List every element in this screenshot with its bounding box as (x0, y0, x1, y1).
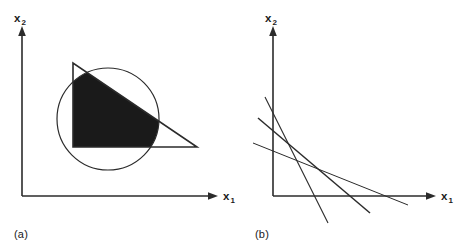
x-axis-label-subscript: 1 (449, 196, 454, 205)
x-axis-arrow-icon (208, 192, 218, 200)
x-axis-label-subscript: 1 (231, 196, 236, 205)
caption-panel-a: (a) (14, 228, 28, 240)
panel-b-diagram: x 2 x 1 (240, 0, 465, 252)
x-axis-arrow-icon (426, 192, 436, 200)
caption-panel-b: (b) (255, 228, 269, 240)
y-axis-arrow-icon (269, 26, 277, 36)
figure-root: x 2 x 1 x 2 x 1 (a) (b) (0, 0, 465, 252)
x-axis-label-base: x (223, 190, 230, 202)
y-axis-arrow-icon (18, 26, 26, 36)
y-axis-label-base: x (14, 12, 21, 24)
x-axis-label-base: x (441, 190, 448, 202)
y-axis-label-subscript: 2 (22, 18, 27, 27)
panel-a-diagram: x 2 x 1 (0, 0, 240, 252)
y-axis-label-base: x (265, 12, 272, 24)
y-axis-label-subscript: 2 (273, 18, 278, 27)
constraint-line-2 (258, 118, 370, 213)
